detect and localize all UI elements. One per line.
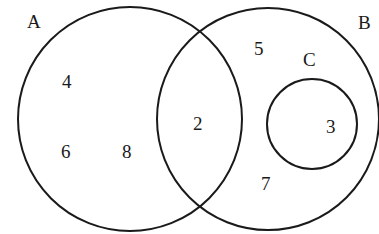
- element-3: 3: [326, 116, 336, 137]
- circle-c: [267, 79, 357, 169]
- set-label-a: A: [27, 11, 41, 32]
- set-label-c: C: [303, 49, 316, 70]
- element-4: 4: [62, 71, 72, 92]
- element-6: 6: [61, 141, 71, 162]
- element-2: 2: [193, 113, 203, 134]
- venn-diagram: A B C 4 6 8 2 5 7 3: [0, 0, 379, 234]
- element-7: 7: [261, 173, 271, 194]
- element-5: 5: [254, 38, 264, 59]
- set-label-b: B: [358, 12, 371, 33]
- circle-a: [18, 7, 242, 231]
- element-8: 8: [122, 141, 132, 162]
